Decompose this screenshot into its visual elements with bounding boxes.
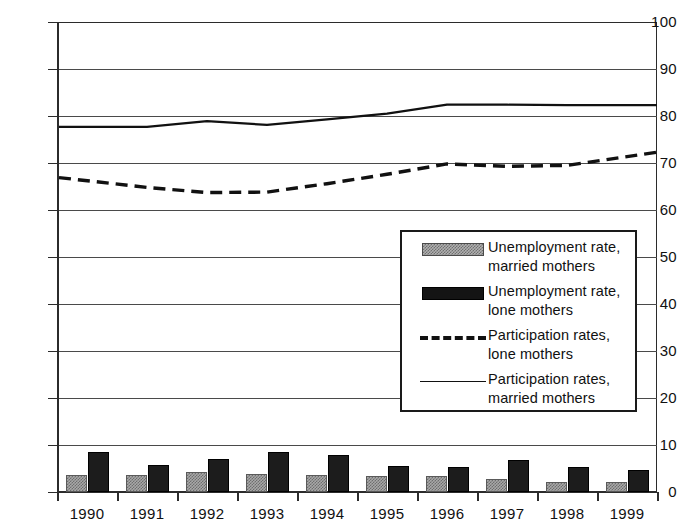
x-axis-tick-9: [597, 492, 599, 501]
hatched-grey-swatch-icon: [422, 243, 484, 256]
bar-unemployment-lone-1994: [328, 455, 349, 492]
chart-legend: Unemployment rate, married mothers Unemp…: [400, 230, 637, 412]
x-axis-tick-0: [57, 492, 59, 501]
x-axis-tick-7: [477, 492, 479, 501]
y-axis-label-90: 90: [635, 61, 677, 76]
y-axis-tick-100: [48, 22, 57, 24]
legend-label-participation-lone: Participation rates, lone mothers: [488, 326, 610, 364]
x-axis-tick-10: [657, 492, 659, 501]
y-axis-tick-60: [48, 210, 57, 212]
y-axis-label-50: 50: [635, 249, 677, 264]
x-axis-label-1992: 1992: [177, 505, 237, 522]
y-axis-label-60: 60: [635, 202, 677, 217]
chart-container: 0102030405060708090100 19901991199219931…: [0, 0, 677, 530]
legend-label-line2: married mothers: [488, 257, 620, 276]
bar-unemployment-lone-1992: [208, 459, 229, 492]
dashed-line-icon: [420, 336, 486, 340]
gridline-80: [57, 116, 657, 117]
y-axis-line: [57, 22, 59, 492]
y-axis-tick-0: [48, 492, 57, 494]
legend-label-line2: lone mothers: [488, 301, 620, 320]
x-axis-label-1999: 1999: [597, 505, 657, 522]
gridline-70: [57, 163, 657, 164]
x-axis-label-1995: 1995: [357, 505, 417, 522]
black-swatch-icon: [422, 287, 484, 300]
bar-unemployment-married-1990: [66, 475, 87, 492]
bar-unemployment-lone-1999: [628, 470, 649, 492]
x-axis-label-1997: 1997: [477, 505, 537, 522]
legend-label-line1: Participation rates,: [488, 326, 610, 345]
bar-unemployment-lone-1991: [148, 465, 169, 492]
x-axis-label-1996: 1996: [417, 505, 477, 522]
x-axis-tick-6: [417, 492, 419, 501]
x-axis-tick-8: [537, 492, 539, 501]
legend-item-unemployment-lone: Unemployment rate, lone mothers: [402, 282, 635, 326]
x-axis-label-1994: 1994: [297, 505, 357, 522]
y-axis-label-70: 70: [635, 155, 677, 170]
y-axis-label-80: 80: [635, 108, 677, 123]
gridline-90: [57, 69, 657, 70]
solid-line-icon: [420, 381, 486, 382]
bar-unemployment-lone-1997: [508, 460, 529, 492]
x-axis-tick-1: [117, 492, 119, 501]
y-axis-label-30: 30: [635, 343, 677, 358]
legend-key-dashed-line: [402, 326, 488, 364]
legend-label-unemployment-lone: Unemployment rate, lone mothers: [488, 282, 620, 320]
bar-unemployment-lone-1990: [88, 452, 109, 492]
bar-unemployment-married-1991: [126, 475, 147, 492]
legend-key-lone-bar: [402, 282, 488, 320]
x-axis-tick-3: [237, 492, 239, 501]
bar-unemployment-married-1999: [606, 482, 627, 492]
legend-label-line2: lone mothers: [488, 345, 610, 364]
bar-unemployment-married-1992: [186, 472, 207, 492]
x-axis-label-1991: 1991: [117, 505, 177, 522]
bar-unemployment-married-1993: [246, 474, 267, 492]
legend-label-line1: Unemployment rate,: [488, 238, 620, 257]
legend-item-participation-married: Participation rates, married mothers: [402, 370, 635, 414]
legend-label-unemployment-married: Unemployment rate, married mothers: [488, 238, 620, 276]
legend-key-solid-line: [402, 370, 488, 408]
legend-item-unemployment-married: Unemployment rate, married mothers: [402, 238, 635, 282]
x-axis-label-1998: 1998: [537, 505, 597, 522]
bar-unemployment-married-1998: [546, 482, 567, 492]
y-axis-tick-80: [48, 116, 57, 118]
y-axis-tick-20: [48, 398, 57, 400]
y-axis-tick-30: [48, 351, 57, 353]
y-axis-tick-50: [48, 257, 57, 259]
gridline-10: [57, 445, 657, 446]
bar-unemployment-lone-1993: [268, 452, 289, 492]
y-axis-tick-10: [48, 445, 57, 447]
bar-unemployment-lone-1995: [388, 466, 409, 492]
legend-label-participation-married: Participation rates, married mothers: [488, 370, 610, 408]
x-axis-label-1993: 1993: [237, 505, 297, 522]
gridline-60: [57, 210, 657, 211]
bar-unemployment-married-1996: [426, 476, 447, 492]
bar-unemployment-married-1997: [486, 479, 507, 492]
bar-unemployment-married-1995: [366, 476, 387, 492]
legend-label-line1: Unemployment rate,: [488, 282, 620, 301]
x-axis-label-1990: 1990: [57, 505, 117, 522]
x-axis-tick-2: [177, 492, 179, 501]
bar-unemployment-lone-1996: [448, 467, 469, 492]
x-axis-tick-4: [297, 492, 299, 501]
y-axis-label-20: 20: [635, 390, 677, 405]
legend-item-participation-lone: Participation rates, lone mothers: [402, 326, 635, 370]
legend-label-line1: Participation rates,: [488, 370, 610, 389]
y-axis-label-40: 40: [635, 296, 677, 311]
legend-key-married-bar: [402, 238, 488, 276]
bar-unemployment-lone-1998: [568, 467, 589, 492]
y-axis-tick-90: [48, 69, 57, 71]
y-axis-tick-70: [48, 163, 57, 165]
bar-unemployment-married-1994: [306, 475, 327, 492]
legend-label-line2: married mothers: [488, 389, 610, 408]
y-axis-tick-40: [48, 304, 57, 306]
y-axis-label-100: 100: [635, 14, 677, 29]
y-axis-label-10: 10: [635, 437, 677, 452]
x-axis-tick-5: [357, 492, 359, 501]
